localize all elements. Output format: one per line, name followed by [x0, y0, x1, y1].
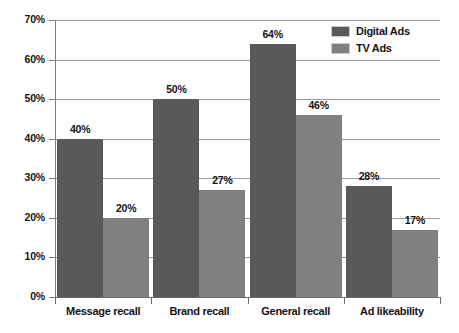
x-axis-category-label: Brand recall	[151, 305, 247, 317]
bar-chart: 0%10%20%30%40%50%60%70% 40%20%50%27%64%4…	[0, 0, 459, 333]
bar	[57, 139, 103, 297]
y-axis-tick-label: 0%	[0, 290, 45, 302]
y-axis-tick	[49, 139, 55, 140]
bar	[153, 99, 199, 297]
bar-value-label: 64%	[244, 28, 302, 40]
gridline	[55, 139, 440, 140]
legend-item: TV Ads	[331, 41, 410, 55]
y-axis-tick	[49, 178, 55, 179]
legend-swatch	[331, 43, 350, 54]
bar	[392, 230, 438, 297]
y-axis-line	[55, 20, 56, 298]
legend: Digital AdsTV Ads	[331, 24, 410, 55]
bar-value-label: 40%	[51, 123, 109, 135]
bar-value-label: 46%	[290, 99, 348, 111]
bar	[346, 186, 392, 297]
y-axis-tick	[49, 20, 55, 21]
bar-value-label: 27%	[193, 174, 251, 186]
bar	[103, 218, 149, 297]
y-axis-tick-label: 50%	[0, 92, 45, 104]
x-axis-tick	[440, 298, 441, 304]
legend-label: Digital Ads	[356, 25, 410, 37]
x-axis-tick	[55, 298, 56, 304]
y-axis-tick-label: 40%	[0, 132, 45, 144]
bar	[296, 115, 342, 297]
legend-item: Digital Ads	[331, 24, 410, 38]
bar-value-label: 50%	[147, 83, 205, 95]
x-axis-category-label: Ad likeability	[344, 305, 440, 317]
gridline	[55, 99, 440, 100]
x-axis-category-label: General recall	[248, 305, 344, 317]
x-axis-category-label: Message recall	[55, 305, 151, 317]
legend-swatch	[331, 26, 350, 37]
bar-value-label: 28%	[340, 170, 398, 182]
y-axis-tick-label: 10%	[0, 250, 45, 262]
gridline	[55, 60, 440, 61]
x-axis-tick	[248, 298, 249, 304]
bar-value-label: 20%	[97, 202, 155, 214]
bar	[250, 44, 296, 297]
y-axis-tick	[49, 218, 55, 219]
x-axis-tick	[344, 298, 345, 304]
y-axis-tick-label: 20%	[0, 211, 45, 223]
plot-area: 40%20%50%27%64%46%28%17% Digital AdsTV A…	[55, 20, 440, 297]
y-axis-tick-label: 30%	[0, 171, 45, 183]
y-axis-tick-label: 60%	[0, 53, 45, 65]
bar	[199, 190, 245, 297]
legend-label: TV Ads	[356, 42, 392, 54]
y-axis-tick	[49, 257, 55, 258]
y-axis-tick-label: 70%	[0, 13, 45, 25]
x-axis-tick	[151, 298, 152, 304]
gridline	[55, 20, 440, 21]
y-axis-tick	[49, 60, 55, 61]
bar-value-label: 17%	[386, 214, 444, 226]
y-axis-tick	[49, 99, 55, 100]
